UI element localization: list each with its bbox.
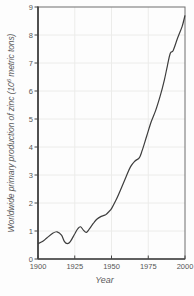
- y-tick-label: 6: [0, 87, 33, 96]
- y-tick-label: 4: [0, 143, 33, 152]
- x-tick-label: 1950: [103, 262, 120, 271]
- y-axis-title-exponent: 6: [6, 79, 12, 82]
- y-tick-label: 9: [0, 3, 33, 12]
- x-tick-label: 2000: [177, 262, 194, 271]
- y-tick-label: 2: [0, 199, 33, 208]
- y-tick-label: 7: [0, 59, 33, 68]
- x-axis-title: Year: [31, 275, 178, 285]
- y-tick-label: 5: [0, 115, 33, 124]
- y-axis-title-prefix: Worldwide primary production of zinc (10: [6, 82, 16, 232]
- y-tick-label: 3: [0, 171, 33, 180]
- y-axis-title-suffix: metric tons): [6, 34, 16, 79]
- y-tick-label: 1: [0, 227, 33, 236]
- x-tick-label: 1900: [30, 262, 47, 271]
- y-tick-label: 0: [0, 255, 33, 264]
- x-tick-label: 1975: [140, 262, 157, 271]
- y-tick-label: 8: [0, 31, 33, 40]
- zinc-production-chart: Worldwide primary production of zinc (10…: [0, 0, 194, 296]
- x-tick-label: 1925: [66, 262, 83, 271]
